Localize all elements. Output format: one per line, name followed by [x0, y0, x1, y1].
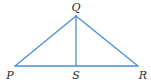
- diagram-svg: Q P S R: [0, 0, 151, 84]
- point-label-s: S: [72, 69, 80, 82]
- segment-pq: [15, 16, 76, 66]
- vertex-label-q: Q: [71, 1, 80, 14]
- segment-qr: [76, 16, 138, 66]
- vertex-label-r: R: [138, 69, 147, 82]
- segments-group: [15, 16, 138, 66]
- vertex-label-p: P: [5, 69, 14, 82]
- triangle-diagram: Q P S R: [0, 0, 151, 84]
